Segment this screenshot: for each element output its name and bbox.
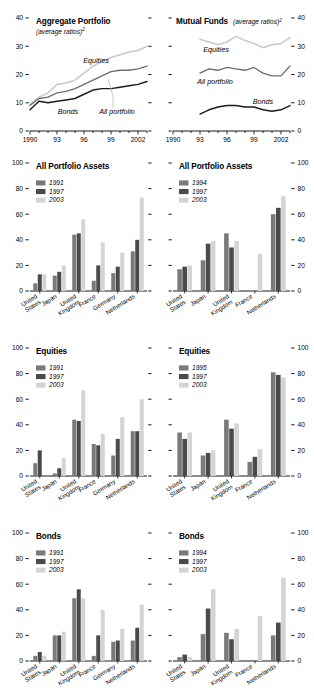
y-tick-label: 0 (298, 127, 302, 134)
bar-1991 (53, 473, 57, 476)
bar-2003 (81, 390, 85, 476)
legend-label-1994: 1994 (192, 179, 207, 186)
legend-swatch-1994 (179, 180, 189, 185)
y-tick-label: 10 (298, 99, 306, 106)
bar-1991 (92, 656, 96, 661)
legend-label-1991: 1991 (49, 549, 64, 556)
bar-group (271, 196, 286, 291)
x-category-label: UnitedKingdom (53, 292, 81, 316)
bar-1994 (224, 233, 229, 291)
y-tick-label: 100 (298, 529, 309, 536)
y-tick-label: 20 (298, 71, 306, 78)
legend-swatch-2003 (179, 383, 189, 388)
legend-swatch-1995 (179, 365, 189, 370)
y-tick-label: 80 (16, 370, 24, 377)
bar-group (258, 616, 263, 661)
legend-swatch-1997 (179, 374, 189, 379)
y-tick-label: 60 (16, 581, 24, 588)
bar-group (33, 652, 46, 661)
x-category-label: UnitedStates (20, 477, 42, 498)
bar-1997 (276, 623, 281, 661)
legend-label-2003: 2003 (191, 566, 207, 573)
bar-1997 (182, 655, 187, 661)
x-category-label: Japan (40, 292, 58, 307)
y-tick-label: 80 (298, 370, 306, 377)
chart-subtitle: (average ratios)2 (233, 18, 282, 26)
x-category-label: Japan (189, 662, 207, 677)
leader-line (108, 79, 113, 108)
bar-1997 (182, 439, 187, 476)
legend-label-2003: 2003 (191, 381, 207, 388)
bar-group (201, 241, 216, 291)
x-category-label: Japan (40, 662, 58, 677)
y-tick-label: 60 (298, 396, 306, 403)
bar-1995 (177, 432, 182, 476)
panel-equities-right: 020406080100UnitedStatesJapanUnitedKingd… (165, 344, 309, 501)
bar-group (224, 233, 239, 291)
bar-1997 (57, 272, 61, 291)
x-category-label: UnitedStates (165, 662, 187, 683)
legend-label-1997: 1997 (192, 558, 207, 565)
legend-swatch-1991 (36, 550, 46, 555)
bar-group (201, 450, 216, 476)
x-category-label-line: Japan (40, 477, 58, 492)
legend-swatch-1991 (36, 365, 46, 370)
bar-2003 (211, 589, 216, 661)
legend-label-1997: 1997 (49, 558, 64, 565)
y-tick-label: 40 (298, 236, 306, 243)
panel-all-portfolio-assets-left: 020406080100UnitedStatesJapanUnitedKingd… (12, 159, 152, 316)
bar-2003 (62, 265, 66, 291)
line-series-bonds (30, 82, 147, 110)
y-tick-label: 20 (298, 632, 306, 639)
bar-group (92, 434, 105, 476)
series-label-equities: Equities (203, 45, 229, 54)
y-tick-label: 40 (16, 421, 24, 428)
bar-group (111, 253, 124, 291)
legend-swatch-2003 (179, 568, 189, 573)
bar-1991 (131, 641, 135, 661)
footnote-marker: 2 (278, 18, 282, 23)
legend-label-2003: 2003 (191, 196, 207, 203)
bar-1991 (92, 281, 96, 291)
bar-group (258, 254, 263, 291)
y-tick-label: 20 (16, 632, 24, 639)
legend-swatch-1991 (36, 180, 46, 185)
bar-group (177, 432, 192, 476)
legend-label-1991: 1991 (49, 179, 64, 186)
y-tick-label: 20 (298, 447, 306, 454)
chart-subtitle: (average ratios)2 (36, 27, 85, 35)
y-tick-label: 30 (16, 43, 24, 50)
figure-page: 19909396992002010203040Aggregate Portfol… (0, 0, 314, 691)
series-label-bonds: Bonds (253, 97, 274, 106)
y-tick-label: 40 (16, 14, 24, 21)
bar-1997 (135, 628, 139, 661)
bar-2003 (120, 253, 124, 291)
x-tick-label: 99 (250, 136, 258, 143)
bar-group (53, 265, 66, 291)
legend-swatch-1997 (179, 559, 189, 564)
bar-1991 (53, 276, 57, 291)
y-tick-label: 0 (298, 287, 302, 294)
bar-1997 (135, 431, 139, 476)
bar-1991 (72, 598, 76, 661)
bar-2003 (120, 417, 124, 476)
x-category-label-line: Japan (40, 662, 58, 677)
bar-1997 (77, 589, 81, 661)
bar-1997 (38, 450, 42, 476)
legend-label-1994: 1994 (192, 549, 207, 556)
bar-1995 (224, 420, 229, 476)
bar-2003 (81, 219, 85, 291)
x-category-label: Japan (189, 477, 207, 492)
y-tick-label: 20 (16, 262, 24, 269)
bar-group (72, 390, 85, 476)
bar-2003 (120, 629, 124, 661)
x-category-label-line: Japan (40, 292, 58, 307)
y-tick-label: 0 (19, 287, 23, 294)
bar-group (72, 589, 85, 661)
bar-1994 (224, 633, 229, 661)
series-label-equities: Equities (83, 56, 109, 65)
bar-1997 (116, 641, 120, 661)
bar-1995 (271, 372, 276, 476)
y-tick-label: 60 (298, 581, 306, 588)
bar-2003 (188, 432, 193, 476)
